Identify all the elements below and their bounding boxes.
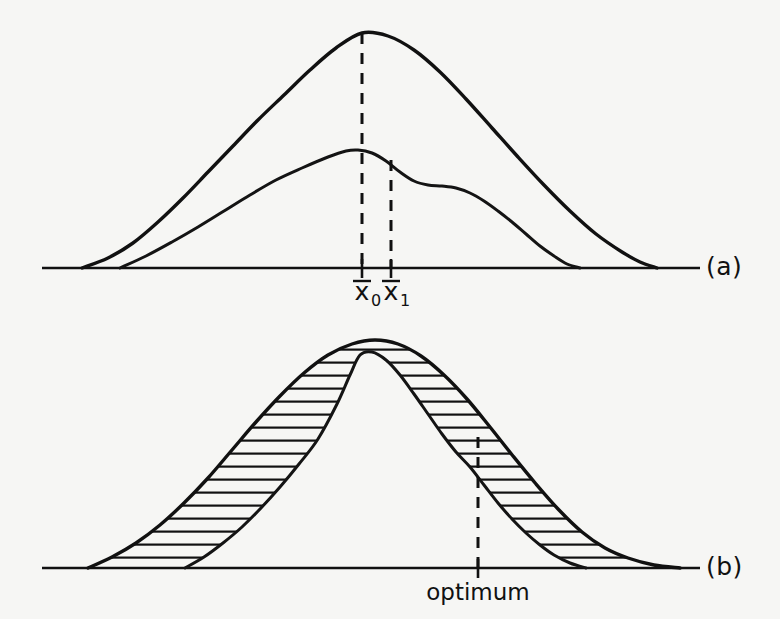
hatched-area [88,340,680,568]
mean-1-label: x 1 [382,277,410,310]
panel-a: x 0 x 1 (a) [42,32,742,310]
inner-curve-a [120,150,580,268]
mean-1-label-text: x [384,277,399,306]
figure-container: x 0 x 1 (a) optimum (b) [0,0,780,619]
panel-label-b: (b) [706,552,743,581]
mean-1-subscript: 1 [400,291,410,310]
outer-curve-a [82,32,657,268]
mean-0-label: x 0 [353,277,381,310]
panel-b: optimum (b) [42,340,743,605]
optimum-label: optimum [426,579,529,605]
mean-0-subscript: 0 [371,291,381,310]
mean-0-label-text: x [355,277,370,306]
distribution-curves-figure: x 0 x 1 (a) optimum (b) [0,0,780,619]
panel-label-a: (a) [706,252,742,281]
